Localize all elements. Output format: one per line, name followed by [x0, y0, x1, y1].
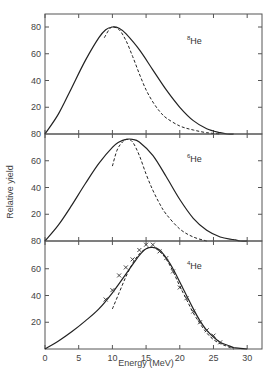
data-marker-x	[131, 257, 135, 261]
panel-bottom: 2040600510152025304He	[31, 241, 262, 363]
data-marker-x	[137, 248, 141, 252]
dashed-curve	[104, 27, 220, 134]
solid-curve	[45, 247, 247, 349]
x-axis-title: Energy (MeV)	[118, 358, 174, 368]
element-symbol: He	[190, 36, 202, 46]
y-tick-label: 60	[31, 49, 41, 59]
x-tick-label: 10	[107, 353, 117, 363]
y-tick-label: 20	[31, 317, 41, 327]
y-tick-label: 60	[31, 156, 41, 166]
data-marker-x	[205, 328, 209, 332]
panel-frame	[45, 134, 262, 241]
y-tick-label: 20	[31, 102, 41, 112]
data-marker-x	[117, 273, 121, 277]
y-tick-label: 80	[31, 129, 41, 139]
x-tick-label: 20	[175, 353, 185, 363]
solid-curve	[45, 139, 247, 241]
element-symbol: He	[190, 154, 202, 164]
y-tick-label: 60	[31, 264, 41, 274]
x-tick-label: 0	[42, 353, 47, 363]
element-symbol: He	[190, 261, 202, 271]
y-tick-label: 40	[31, 291, 41, 301]
y-axis-title: Relative yield	[5, 165, 15, 219]
panel-frame	[45, 14, 262, 134]
y-tick-label: 20	[31, 209, 41, 219]
y-tick-label: 40	[31, 76, 41, 86]
x-tick-label: 5	[76, 353, 81, 363]
isotope-label: 6He	[187, 153, 202, 164]
data-marker-x	[124, 265, 128, 269]
x-tick-label: 30	[242, 353, 252, 363]
y-tick-label: 80	[31, 22, 41, 32]
panel-frame	[45, 241, 262, 349]
panel-top: 20406080808He	[31, 14, 262, 139]
data-marker-x	[151, 243, 155, 247]
solid-curve	[45, 27, 234, 134]
isotope-label: 4He	[187, 260, 202, 271]
y-tick-label: 80	[31, 236, 41, 246]
x-tick-label: 25	[208, 353, 218, 363]
y-tick-label: 40	[31, 183, 41, 193]
panel-middle: 204060806He	[31, 134, 262, 246]
stacked-line-chart: 20406080808He204060806He2040600510152025…	[0, 0, 275, 386]
isotope-label: 8He	[187, 35, 202, 46]
